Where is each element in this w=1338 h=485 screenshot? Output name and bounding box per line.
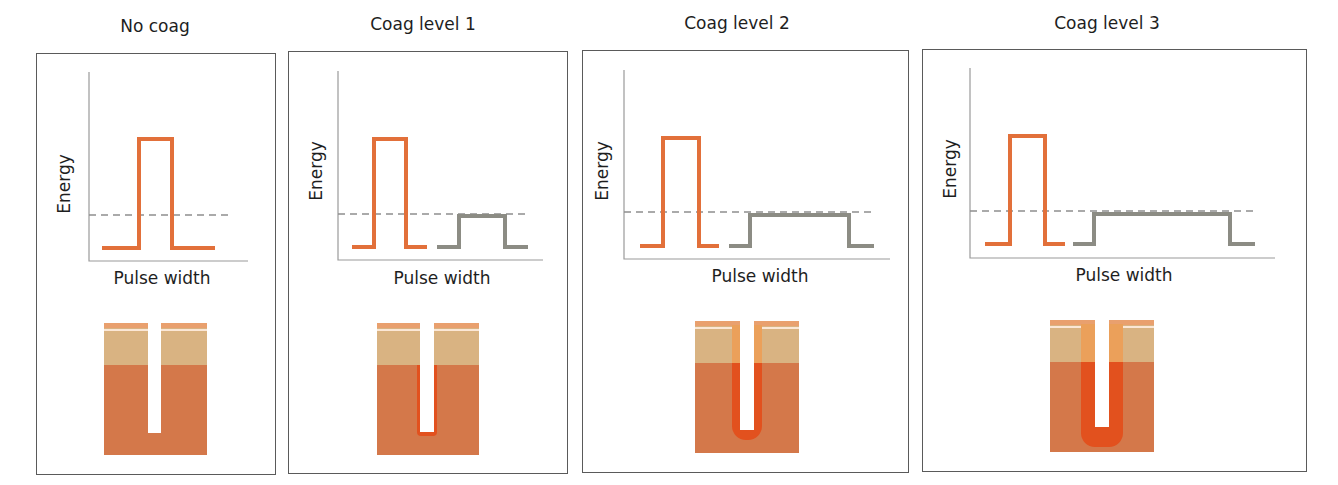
coagulation-pulse: [729, 215, 874, 246]
chart-axes: [89, 72, 248, 261]
coagulation-pulse: [1073, 214, 1255, 244]
pulse-and-tissue-graphics: [0, 0, 1338, 485]
ablative-pulse: [640, 138, 719, 246]
ablation-channel: [420, 322, 434, 432]
coagulation-pulse: [437, 216, 528, 247]
ablative-pulse: [352, 139, 427, 247]
ablation-channel: [740, 320, 754, 430]
ablation-channel: [1095, 319, 1109, 427]
chart-axes: [338, 71, 543, 260]
ablative-pulse: [985, 136, 1065, 244]
ablative-pulse: [102, 139, 215, 248]
ablation-channel: [148, 322, 161, 433]
